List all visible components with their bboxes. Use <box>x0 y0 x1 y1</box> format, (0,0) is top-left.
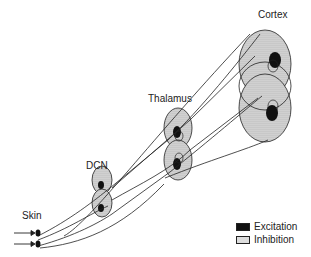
stage-label-thalamus: Thalamus <box>148 93 192 104</box>
legend-item-inhibition: Inhibition <box>236 233 297 246</box>
cortex-field <box>239 30 291 142</box>
input-arrows <box>14 231 35 247</box>
receptive-field-diagram <box>0 0 311 257</box>
projection-pathways <box>38 34 268 248</box>
skin-receptors <box>36 230 41 248</box>
dcn-field <box>92 166 112 217</box>
inhibition-swatch-icon <box>236 236 250 244</box>
legend-item-excitation: Excitation <box>236 220 297 233</box>
stage-label-cortex: Cortex <box>258 9 287 20</box>
stage-label-dcn: DCN <box>86 160 108 171</box>
stage-label-skin: Skin <box>22 210 41 221</box>
excitation-swatch-icon <box>236 223 250 231</box>
legend: Excitation Inhibition <box>236 220 297 246</box>
